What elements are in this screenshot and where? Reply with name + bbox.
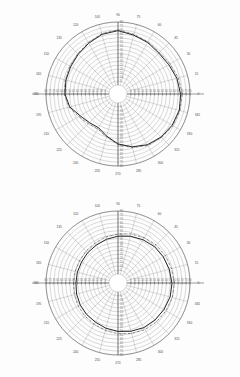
radial-tick-label: 35 [120, 318, 123, 322]
polar-chart-top: 5555101010101515151520202020252525253030… [0, 0, 240, 188]
angle-tick-label: 105 [95, 15, 101, 19]
radial-tick-label: 35 [80, 278, 83, 282]
angle-tick-label: 180 [33, 92, 39, 96]
radial-tick-label: 25 [120, 63, 123, 67]
radial-tick-label: 70 [120, 156, 123, 160]
angle-tick-label: 255 [95, 358, 101, 362]
radial-tick-label: 75 [185, 278, 188, 282]
polar-chart-top-svg: 5555101010101515151520202020252525253030… [0, 0, 240, 188]
radial-tick-label: 10 [100, 89, 103, 93]
radial-tick-label: 65 [120, 221, 123, 225]
centre-hub [109, 274, 127, 292]
angle-tick-label: 300 [158, 161, 164, 165]
radial-tick-label: 80 [189, 89, 192, 93]
radial-tick-label: 50 [120, 140, 123, 144]
radial-tick-label: 65 [177, 278, 180, 282]
radial-tick-label: 70 [120, 217, 123, 221]
radial-tick-label: 50 [165, 278, 168, 282]
radial-tick-label: 60 [120, 36, 123, 40]
radial-tick-label: 50 [68, 278, 71, 282]
radial-tick-label: 30 [120, 125, 123, 129]
angle-tick-label: 75 [137, 15, 141, 19]
radial-tick-label: 25 [120, 252, 123, 256]
radial-tick-label: 40 [120, 241, 123, 245]
angle-tick-label: 225 [56, 148, 62, 152]
radial-tick-label: 55 [64, 278, 67, 282]
radial-tick-label: 40 [120, 322, 123, 326]
radial-tick-label: 15 [96, 89, 99, 93]
angle-tick-label: 90 [116, 13, 120, 17]
angle-tick-label: 150 [44, 52, 50, 56]
radial-tick-label: 70 [181, 278, 184, 282]
angle-tick-label: 270 [115, 361, 121, 365]
radial-tick-label: 60 [173, 89, 176, 93]
radial-tick-label: 40 [157, 89, 160, 93]
angle-tick-label: 240 [73, 161, 79, 165]
radial-tick-label: 5 [130, 89, 132, 93]
radial-tick-label: 25 [88, 89, 91, 93]
angle-tick-label: 345 [195, 113, 201, 117]
radial-tick-label: 25 [145, 89, 148, 93]
angle-tick-label: 30 [187, 52, 191, 56]
radial-tick-label: 30 [120, 248, 123, 252]
radial-tick-label: 45 [120, 325, 123, 329]
radial-tick-label: 45 [72, 89, 75, 93]
radial-tick-label: 20 [120, 67, 123, 71]
angle-tick-label: 210 [44, 132, 50, 136]
radial-tick-label: 15 [137, 89, 140, 93]
radial-tick-label: 35 [120, 244, 123, 248]
grid-spoke [124, 100, 169, 145]
angle-tick-label: 30 [187, 241, 191, 245]
radial-tick-label: 15 [120, 260, 123, 264]
grid-spoke [124, 232, 169, 277]
radial-tick-label: 20 [141, 278, 144, 282]
angle-tick-label: 45 [174, 36, 178, 40]
angle-tick-label: 315 [174, 148, 180, 152]
radial-tick-label: 60 [120, 148, 123, 152]
radial-tick-label: 35 [153, 278, 156, 282]
radial-tick-label: 15 [96, 278, 99, 282]
radial-tick-label: 20 [92, 278, 95, 282]
angle-tick-label: 75 [137, 204, 141, 208]
radial-tick-label: 30 [149, 89, 152, 93]
radial-tick-label: 25 [88, 278, 91, 282]
angle-tick-label: 345 [195, 302, 201, 306]
radial-tick-label: 40 [120, 133, 123, 137]
radial-tick-label: 65 [56, 89, 59, 93]
radial-tick-label: 50 [120, 44, 123, 48]
radial-tick-label: 55 [120, 40, 123, 44]
polar-chart-bottom-svg: 5555101010101515151520202020252525253030… [0, 189, 240, 377]
radial-tick-label: 45 [161, 89, 164, 93]
radial-tick-label: 30 [84, 278, 87, 282]
radial-tick-label: 80 [45, 278, 48, 282]
grid-spoke [67, 232, 112, 277]
radial-tick-label: 40 [120, 52, 123, 56]
radial-tick-label: 80 [45, 89, 48, 93]
angle-tick-label: 210 [44, 321, 50, 325]
angle-tick-label: 270 [115, 172, 121, 176]
angle-tick-label: 240 [73, 350, 79, 354]
angle-tick-label: 135 [56, 36, 62, 40]
angle-tick-label: 45 [174, 225, 178, 229]
radial-tick-label: 20 [120, 117, 123, 121]
angle-tick-label: 330 [187, 132, 193, 136]
angle-tick-label: 60 [158, 212, 162, 216]
radial-tick-label: 75 [48, 278, 51, 282]
radial-tick-label: 35 [80, 89, 83, 93]
angle-tick-label: 195 [36, 302, 42, 306]
radial-tick-label: 80 [189, 278, 192, 282]
radial-tick-label: 45 [120, 48, 123, 52]
angle-tick-label: 150 [44, 241, 50, 245]
angle-tick-label: 300 [158, 350, 164, 354]
angle-tick-label: 165 [36, 261, 42, 265]
angle-tick-label: 90 [116, 202, 120, 206]
radial-tick-label: 65 [120, 152, 123, 156]
radial-tick-label: 45 [161, 278, 164, 282]
radial-tick-label: 5 [130, 278, 132, 282]
radial-tick-label: 70 [52, 278, 55, 282]
radial-tick-label: 30 [120, 314, 123, 318]
radial-tick-label: 45 [120, 136, 123, 140]
grid-bottom [32, 211, 204, 355]
radial-tick-label: 35 [120, 55, 123, 59]
radial-tick-label: 25 [145, 278, 148, 282]
